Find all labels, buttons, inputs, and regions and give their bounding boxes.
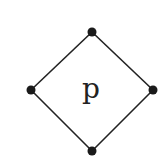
center-label: p <box>82 72 100 105</box>
diamond-diagram: p <box>0 0 158 162</box>
edge-right-bottom <box>92 90 153 151</box>
node-left <box>27 86 36 95</box>
edge-top-right <box>92 32 153 90</box>
node-top <box>88 28 97 37</box>
node-bottom <box>88 147 97 156</box>
diagram-canvas: p <box>0 0 158 162</box>
node-right <box>149 86 158 95</box>
